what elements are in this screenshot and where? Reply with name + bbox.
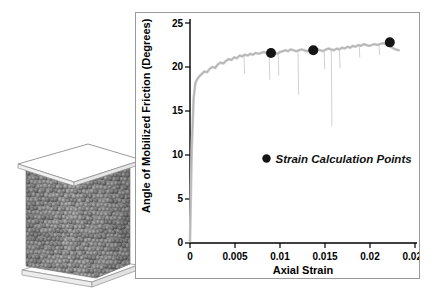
- x-tick-label: 0.02: [360, 251, 380, 262]
- friction-curve-line: [190, 43, 399, 241]
- particle: [19, 148, 24, 153]
- stress-drop-spike: [244, 56, 245, 73]
- figure-root: Angle of Mobilized Friction (Degrees) 25…: [0, 0, 433, 304]
- particle: [130, 191, 134, 195]
- particle: [130, 208, 135, 213]
- strain-calculation-point: [385, 37, 395, 47]
- stress-drop-spike: [298, 50, 299, 94]
- stress-drop-spike: [324, 50, 325, 68]
- stress-drop-spike: [339, 49, 340, 67]
- particle: [22, 240, 27, 245]
- y-tick-label: 15: [172, 105, 184, 116]
- particle: [22, 206, 26, 210]
- particle: [32, 148, 37, 153]
- friction-curve-band: [190, 43, 399, 241]
- particle: [20, 176, 24, 180]
- particle: [35, 153, 39, 157]
- chart-legend: Strain Calculation Points: [262, 153, 411, 165]
- x-tick-label: 0: [187, 251, 193, 262]
- particle: [130, 235, 135, 240]
- particle: [19, 219, 24, 224]
- stress-drop-spike: [278, 53, 279, 75]
- particle: [26, 154, 30, 158]
- strain-calculation-point: [266, 48, 276, 58]
- particle: [22, 154, 26, 158]
- particle: [47, 149, 52, 154]
- particle: [21, 180, 26, 185]
- legend-marker-icon: [262, 154, 270, 162]
- particle: [21, 196, 26, 201]
- x-axis-ticks: [190, 243, 415, 248]
- y-tick-label: 5: [177, 193, 183, 204]
- particle: [19, 157, 24, 162]
- particle: [36, 149, 41, 154]
- y-axis-ticks: [185, 23, 190, 243]
- x-tick-labels: 0 0.005 0.01 0.015 0.02 0.025: [187, 251, 419, 262]
- particle: [20, 263, 24, 267]
- particle: [22, 250, 26, 254]
- particle: [30, 153, 35, 158]
- particle: [22, 275, 27, 280]
- friction-curve-envelope: [190, 43, 399, 241]
- x-tick-label: 0.015: [312, 251, 337, 262]
- particle: [19, 192, 24, 197]
- particle: [22, 188, 27, 193]
- friction-angle-chart-panel: Angle of Mobilized Friction (Degrees) 25…: [135, 12, 420, 279]
- particle: [118, 278, 123, 283]
- y-tick-label: 0: [177, 237, 183, 248]
- x-tick-label: 0.025: [402, 251, 419, 262]
- stress-drop-spike: [359, 45, 360, 57]
- specimen-illustration: [14, 132, 146, 304]
- x-tick-label: 0.005: [222, 251, 247, 262]
- strain-calculation-point: [308, 45, 318, 55]
- particle: [20, 246, 24, 250]
- particle: [26, 277, 30, 281]
- particle: [44, 149, 49, 154]
- y-tick-label: 25: [172, 18, 184, 29]
- particle: [25, 150, 29, 154]
- y-tick-labels: 25 20 15 10 5 0: [172, 18, 184, 248]
- particle: [121, 277, 126, 282]
- x-axis-title: Axial Strain: [273, 264, 334, 276]
- particle: [20, 237, 25, 242]
- particle: [19, 201, 24, 206]
- particle: [20, 254, 24, 258]
- specimen-svg: [14, 132, 146, 304]
- y-axis-title: Angle of Mobilized Friction (Degrees): [140, 18, 152, 213]
- particle: [20, 184, 24, 188]
- particle: [130, 173, 134, 177]
- particle: [20, 227, 25, 232]
- x-tick-label: 0.01: [270, 251, 290, 262]
- particle: [128, 275, 132, 279]
- strain-calculation-markers: [266, 37, 395, 58]
- particle: [28, 149, 32, 153]
- particle: [130, 226, 134, 230]
- plot-axes: [190, 19, 417, 243]
- particle: [20, 210, 24, 214]
- stress-drop-spike: [331, 49, 332, 126]
- particle: [40, 148, 45, 153]
- chart-svg: Angle of Mobilized Friction (Degrees) 25…: [136, 13, 419, 278]
- particle: [21, 258, 26, 263]
- particle: [128, 151, 133, 156]
- y-tick-label: 20: [172, 61, 184, 72]
- particle: [126, 277, 131, 282]
- legend-label: Strain Calculation Points: [276, 153, 412, 165]
- stress-drop-spikes: [244, 44, 380, 126]
- y-tick-label: 10: [172, 149, 184, 160]
